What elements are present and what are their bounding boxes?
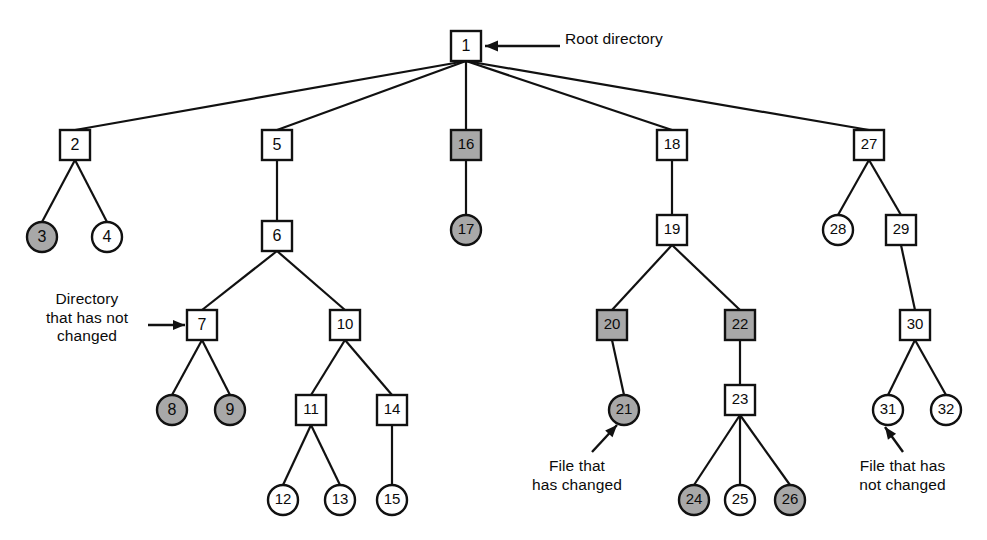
tree-node-22[interactable]: 22 xyxy=(725,310,755,340)
tree-node-12[interactable]: 12 xyxy=(268,485,298,515)
tree-edge-29-30 xyxy=(901,245,915,310)
tree-node-label: 10 xyxy=(337,315,354,332)
tree-node-3[interactable]: 3 xyxy=(27,222,57,252)
tree-node-32[interactable]: 32 xyxy=(931,395,961,425)
tree-node-label: 27 xyxy=(861,135,878,152)
tree-edge-30-31 xyxy=(888,340,915,395)
tree-node-label: 9 xyxy=(226,401,235,418)
tree-edge-2-4 xyxy=(75,160,107,222)
tree-node-label: 12 xyxy=(275,490,292,507)
tree-node-label: 7 xyxy=(198,316,207,333)
tree-node-label: 28 xyxy=(830,220,847,237)
file-unchanged-arrow-head xyxy=(885,427,896,440)
tree-edge-11-12 xyxy=(283,425,311,485)
tree-node-25[interactable]: 25 xyxy=(725,485,755,515)
tree-edge-23-24 xyxy=(694,415,740,485)
tree-node-label: 21 xyxy=(616,400,633,417)
tree-node-label: 19 xyxy=(664,220,681,237)
root-directory-annotation: Root directory xyxy=(565,30,663,49)
tree-node-21[interactable]: 21 xyxy=(609,395,639,425)
tree-node-label: 5 xyxy=(273,136,282,153)
tree-edge-10-14 xyxy=(345,340,392,395)
tree-node-4[interactable]: 4 xyxy=(92,222,122,252)
tree-node-24[interactable]: 24 xyxy=(679,485,709,515)
tree-node-8[interactable]: 8 xyxy=(157,395,187,425)
tree-node-label: 6 xyxy=(273,227,282,244)
tree-edge-1-2 xyxy=(75,61,466,130)
tree-edge-30-32 xyxy=(915,340,946,395)
tree-edge-7-8 xyxy=(172,340,202,395)
tree-edge-20-21 xyxy=(612,340,624,395)
tree-node-label: 4 xyxy=(103,228,112,245)
tree-node-label: 3 xyxy=(38,228,47,245)
tree-edge-6-10 xyxy=(277,251,345,310)
file-unchanged-annotation: File that has not changed xyxy=(820,457,985,494)
tree-node-label: 18 xyxy=(664,135,681,152)
tree-node-label: 25 xyxy=(732,490,749,507)
tree-node-label: 29 xyxy=(893,220,910,237)
tree-node-label: 14 xyxy=(384,400,401,417)
tree-node-9[interactable]: 9 xyxy=(215,395,245,425)
tree-edge-19-20 xyxy=(612,245,672,310)
tree-node-23[interactable]: 23 xyxy=(725,385,755,415)
tree-node-18[interactable]: 18 xyxy=(657,130,687,160)
tree-node-label: 15 xyxy=(384,490,401,507)
tree-edge-23-26 xyxy=(740,415,790,485)
tree-node-28[interactable]: 28 xyxy=(823,215,853,245)
tree-node-19[interactable]: 19 xyxy=(657,215,687,245)
tree-node-10[interactable]: 10 xyxy=(330,310,360,340)
root-directory-arrow-head xyxy=(485,41,498,52)
tree-edge-27-28 xyxy=(838,160,869,215)
tree-edge-11-13 xyxy=(311,425,340,485)
tree-node-label: 17 xyxy=(458,220,475,237)
tree-edge-2-3 xyxy=(42,160,75,222)
file-changed-annotation: File that has changed xyxy=(497,457,657,494)
tree-node-label: 31 xyxy=(880,400,897,417)
dump-tree-diagram: 1234567891011121314151617181920212223242… xyxy=(0,0,987,540)
tree-node-label: 30 xyxy=(907,315,924,332)
tree-node-17[interactable]: 17 xyxy=(451,215,481,245)
tree-edge-1-5 xyxy=(277,61,466,130)
tree-node-label: 22 xyxy=(732,315,749,332)
tree-node-30[interactable]: 30 xyxy=(900,310,930,340)
tree-node-1[interactable]: 1 xyxy=(451,31,481,61)
tree-node-label: 8 xyxy=(168,401,177,418)
directory-unchanged-arrow-head xyxy=(173,320,185,330)
tree-node-27[interactable]: 27 xyxy=(854,130,884,160)
tree-node-13[interactable]: 13 xyxy=(325,485,355,515)
tree-node-label: 2 xyxy=(71,136,80,153)
tree-edge-7-9 xyxy=(202,340,230,395)
tree-node-label: 1 xyxy=(462,37,471,54)
tree-node-label: 16 xyxy=(458,135,475,152)
tree-node-6[interactable]: 6 xyxy=(262,221,292,251)
tree-node-16[interactable]: 16 xyxy=(451,130,481,160)
tree-node-20[interactable]: 20 xyxy=(597,310,627,340)
directory-unchanged-annotation: Directory that has not changed xyxy=(12,290,162,346)
tree-node-11[interactable]: 11 xyxy=(296,395,326,425)
tree-node-31[interactable]: 31 xyxy=(873,395,903,425)
tree-node-label: 20 xyxy=(604,315,621,332)
tree-node-label: 32 xyxy=(938,400,955,417)
tree-node-label: 23 xyxy=(732,390,749,407)
tree-node-14[interactable]: 14 xyxy=(377,395,407,425)
tree-node-26[interactable]: 26 xyxy=(775,485,805,515)
tree-node-label: 11 xyxy=(303,400,319,417)
tree-node-15[interactable]: 15 xyxy=(377,485,407,515)
tree-edge-6-7 xyxy=(202,251,277,310)
tree-edge-1-18 xyxy=(466,61,672,130)
tree-edge-27-29 xyxy=(869,160,901,215)
tree-node-2[interactable]: 2 xyxy=(60,130,90,160)
tree-node-29[interactable]: 29 xyxy=(886,215,916,245)
tree-edge-19-22 xyxy=(672,245,740,310)
tree-edge-10-11 xyxy=(311,340,345,395)
tree-node-label: 26 xyxy=(782,490,799,507)
tree-node-5[interactable]: 5 xyxy=(262,130,292,160)
tree-node-label: 13 xyxy=(332,490,349,507)
tree-node-7[interactable]: 7 xyxy=(187,310,217,340)
tree-node-label: 24 xyxy=(686,490,703,507)
tree-edge-1-27 xyxy=(466,61,869,130)
